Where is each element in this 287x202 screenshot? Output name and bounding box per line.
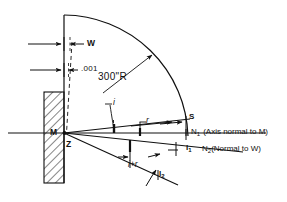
window-back-face-dashed-line [67,42,73,133]
label-image-I1-subscript: 1 [188,147,191,153]
label-source-S: S [189,113,194,121]
vertex-point-Z [63,131,67,135]
label-tolerance-001: .001 [81,65,98,73]
label-angle-i-plus-r: i+r [128,160,138,169]
label-normal-N1-note: (Axis normal to M) [203,127,268,136]
label-image-I2: I2 [159,170,165,179]
figure-canvas: W .001 300"R M Z S i r i+r I1 I2 N1(Axis… [0,0,287,202]
label-normal-N2-note: (Normal to W) [211,144,261,153]
label-angle-i: i [113,98,115,107]
angle-marker-i-plus-r [118,140,160,168]
label-image-I2-subscript: 2 [161,173,164,179]
label-radius-300in: 300"R [98,72,127,82]
i-plus-r-right-arrow [148,154,160,157]
label-normal-N2: N2(Normal to W) [202,145,261,154]
label-vertex-Z: Z [66,140,71,149]
label-angle-r: r [146,116,149,125]
label-normal-N1: N1(Axis normal to M) [191,128,268,137]
angle-r-arrow [131,122,172,126]
label-width-W: W [87,39,95,48]
angle-marker-r [131,122,172,136]
dimension-W [28,37,84,51]
mirror-block-M [44,92,64,183]
label-normal-N1-subscript: 1 [197,131,200,137]
diagram-svg [0,0,287,202]
ray-to-S [64,119,190,133]
I2-leader [146,170,158,186]
mirror-hatched-body [44,92,64,183]
label-mirror-M: M [50,128,57,137]
label-image-I1: I1 [186,144,192,153]
